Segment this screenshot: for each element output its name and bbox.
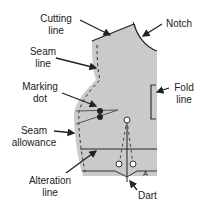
marking-dot-upper xyxy=(97,108,103,114)
label-notch: Notch xyxy=(166,18,192,29)
sewing-pattern-diagram: A Cutting line Notch Seam line Marking d… xyxy=(0,0,201,213)
arrow-seam-allowance xyxy=(54,131,74,133)
svg-text:line: line xyxy=(176,94,192,105)
marking-dot-lower xyxy=(97,114,103,120)
arrow-cutting-line xyxy=(80,20,110,35)
svg-text:Alteration: Alteration xyxy=(29,175,71,186)
svg-text:allowance: allowance xyxy=(12,137,57,148)
svg-text:Seam: Seam xyxy=(30,46,56,57)
arrow-fold-line xyxy=(157,88,169,92)
svg-text:Dart: Dart xyxy=(138,190,157,201)
pattern-piece xyxy=(74,24,157,176)
label-seam-line: Seam line xyxy=(30,46,56,69)
arrow-seam-line xyxy=(56,58,96,68)
svg-text:Marking: Marking xyxy=(22,81,58,92)
piece-letter: A xyxy=(143,170,148,177)
arrow-dart xyxy=(130,181,137,190)
label-marking-dot: Marking dot xyxy=(22,81,58,104)
svg-text:Notch: Notch xyxy=(166,18,192,29)
label-cutting-line: Cutting line xyxy=(40,13,72,36)
dart-circle-left xyxy=(116,161,122,167)
label-dart: Dart xyxy=(138,190,157,201)
svg-text:Fold: Fold xyxy=(174,82,193,93)
svg-text:dot: dot xyxy=(33,93,47,104)
label-alteration-line: Alteration line xyxy=(29,175,71,198)
dart-circle-right xyxy=(130,161,136,167)
label-fold-line: Fold line xyxy=(174,82,193,105)
dart-point-circle xyxy=(124,117,130,123)
svg-text:line: line xyxy=(42,187,58,198)
arrow-notch xyxy=(143,24,162,36)
svg-text:Seam: Seam xyxy=(21,125,47,136)
svg-text:line: line xyxy=(48,25,64,36)
label-seam-allowance: Seam allowance xyxy=(12,125,57,148)
svg-text:Cutting: Cutting xyxy=(40,13,72,24)
svg-text:line: line xyxy=(35,58,51,69)
